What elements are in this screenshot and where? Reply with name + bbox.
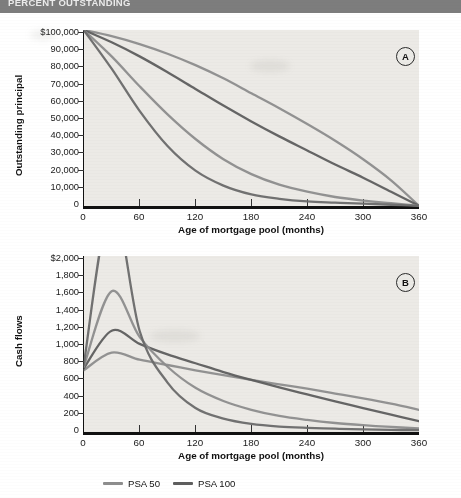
page-header-band: PERCENT OUTSTANDING	[0, 0, 461, 13]
panel-b-xtick: 180	[243, 437, 259, 448]
figure-container: $100,000 90,000 80,000 70,000 60,000 50,…	[0, 13, 461, 498]
curve-psa-300	[84, 291, 419, 429]
header-title: PERCENT OUTSTANDING	[8, 0, 131, 8]
panel-a-xtick: 60	[134, 211, 145, 222]
panel-a-xtick: 120	[187, 211, 203, 222]
scan-smudge	[30, 30, 56, 40]
scan-smudge	[250, 60, 290, 72]
panel-b-xtick: 360	[411, 437, 427, 448]
curve-psa-100	[84, 30, 419, 206]
panel-a-xtick: 180	[243, 211, 259, 222]
panel-a: $100,000 90,000 80,000 70,000 60,000 50,…	[0, 13, 461, 238]
panel-a-xtick: 300	[355, 211, 371, 222]
panel-a-tag: A	[396, 47, 415, 66]
panel-b-xtick: 60	[134, 437, 145, 448]
panel-b-xtick: 300	[355, 437, 371, 448]
panel-a-xtick: 240	[299, 211, 315, 222]
panel-b-xtick: 0	[80, 437, 85, 448]
legend-swatch-psa-100	[173, 482, 193, 485]
panel-b-xtick: 120	[187, 437, 203, 448]
legend-label-psa-50: PSA 50	[128, 478, 160, 489]
panel-a-curves	[0, 13, 461, 238]
curve-psa-100	[84, 330, 419, 421]
figure-legend: PSA 50 PSA 100	[0, 466, 461, 498]
panel-a-xaxis-title: Age of mortgage pool (months)	[178, 224, 324, 235]
panel-b-curves	[0, 239, 461, 479]
legend-label-psa-100: PSA 100	[198, 478, 235, 489]
panel-b-xtick: 240	[299, 437, 315, 448]
legend-item-psa-100: PSA 100	[173, 478, 235, 489]
panel-b: $2,000 1,800 1,600 1,400 1,200 1,000 800…	[0, 239, 461, 479]
panel-b-tag: B	[396, 273, 415, 292]
legend-swatch-psa-50	[103, 482, 123, 485]
legend-row: PSA 50 PSA 100	[103, 478, 235, 489]
panel-b-xaxis-title: Age of mortgage pool (months)	[178, 450, 324, 461]
panel-a-xtick: 360	[411, 211, 427, 222]
scan-smudge	[150, 330, 200, 342]
legend-item-psa-50: PSA 50	[103, 478, 160, 489]
panel-a-xtick: 0	[80, 211, 85, 222]
